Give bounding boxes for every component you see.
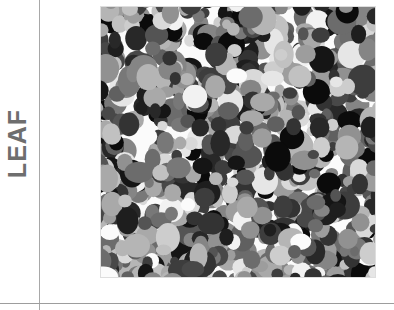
vertical-axis-line (39, 0, 40, 310)
figure-root: LEAF (0, 0, 394, 310)
row-label-leaf-text: LEAF (6, 108, 31, 177)
leaf-texture-canvas (101, 7, 375, 277)
leaf-texture-image (101, 7, 375, 277)
row-label-leaf: LEAF (0, 95, 36, 191)
horizontal-axis-line (0, 303, 394, 304)
